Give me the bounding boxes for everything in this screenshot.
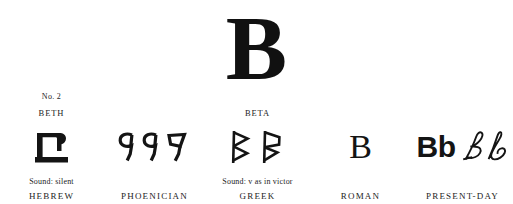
present-day-glyph-container: Bb [412,119,513,175]
column-present-day: Bb PRESENT-DAY [412,92,513,204]
roman-glyph-container: B [309,119,412,175]
headline-letter-b: B [0,2,513,94]
letter-name-beta: BETA [206,108,309,119]
column-phoenician: PHOENICIAN [103,92,206,204]
phoenician-beth-glyphs [117,127,193,167]
letter-name-beth: BETH [0,108,103,119]
greek-beta-glyphs [227,127,289,167]
evolution-columns: No. 2 BETH Sound: silent HEBREW [0,92,513,204]
present-day-script-b-glyph [461,129,509,165]
phoenician-glyph-container [103,119,206,175]
era-label-present-day: PRESENT-DAY [426,188,499,204]
greek-glyph-container [206,119,309,175]
era-label-greek: GREEK [240,188,276,204]
era-label-phoenician: PHOENICIAN [121,188,188,204]
hebrew-glyph-container [0,119,103,175]
letter-evolution-diagram: B No. 2 BETH Sound: silent HEBREW [0,0,513,204]
era-label-roman: ROMAN [341,188,381,204]
roman-capital-b-glyph: B [349,130,372,164]
item-number-label: No. 2 [0,92,103,102]
era-label-hebrew: HEBREW [29,188,74,204]
sound-note-hebrew: Sound: silent [29,176,74,188]
hebrew-bet-glyph [35,127,69,167]
sound-note-greek: Sound: v as in victor [222,176,292,188]
present-day-glyph-row: Bb [417,129,509,165]
column-hebrew: No. 2 BETH Sound: silent HEBREW [0,92,103,204]
present-day-print-b-glyph: Bb [417,132,456,162]
column-greek: BETA Sound: v as in victor G [206,92,309,204]
column-roman: B ROMAN [309,92,412,204]
